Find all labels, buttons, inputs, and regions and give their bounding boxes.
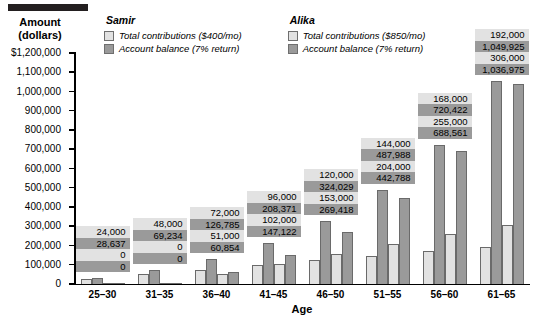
y-axis-tick-label: 0 [55, 278, 61, 289]
bar[interactable] [263, 243, 274, 283]
bar[interactable] [491, 81, 502, 283]
data-label-stack: 168,000720,422255,000688,561 [418, 93, 472, 139]
y-axis-tick-label: 200,000 [25, 239, 61, 250]
bar[interactable] [331, 254, 342, 283]
bar[interactable] [434, 145, 445, 284]
bar[interactable] [366, 256, 377, 284]
bar[interactable] [388, 244, 399, 283]
bar-group: 168,000720,422255,000688,56156–60 [416, 53, 473, 284]
x-axis-tick-label: 61–65 [488, 289, 516, 300]
data-label: 0 [76, 261, 130, 273]
x-axis-line [74, 284, 530, 286]
y-axis-tick-label: 300,000 [25, 220, 61, 231]
data-label: 255,000 [418, 116, 472, 128]
y-axis-tick-label: 800,000 [25, 124, 61, 135]
data-label: 72,000 [190, 207, 244, 219]
bar[interactable] [342, 232, 353, 284]
data-label: 120,000 [304, 169, 358, 181]
data-label: 144,000 [361, 138, 415, 150]
bar[interactable] [445, 234, 456, 283]
bar[interactable] [103, 283, 114, 284]
x-axis-tick-label: 41–45 [260, 289, 288, 300]
bar[interactable] [480, 247, 491, 284]
bar[interactable] [171, 283, 182, 284]
bar[interactable] [206, 259, 217, 283]
x-axis-tick-label: 25–30 [89, 289, 117, 300]
chart-page: Amount (dollars) SamirTotal contribution… [0, 0, 542, 324]
decorative-rule [8, 4, 88, 11]
bar[interactable] [456, 151, 467, 284]
data-label: 269,418 [304, 204, 358, 216]
bar-group: 72,000126,78551,00060,85436–40 [188, 53, 245, 284]
legend-item-label: Total contributions ($850/mo) [303, 30, 426, 41]
legend-item[interactable]: Total contributions ($400/mo) [104, 30, 242, 41]
bars-container [473, 53, 530, 284]
bar[interactable] [320, 221, 331, 283]
data-label-stack: 120,000324,029153,000269,418 [304, 169, 358, 215]
legend: SamirTotal contributions ($400/mo)Accoun… [104, 14, 425, 56]
data-label: 51,000 [190, 230, 244, 242]
data-label-stack: 144,000487,988204,000442,788 [361, 138, 415, 184]
bar[interactable] [114, 283, 125, 284]
bar[interactable] [217, 274, 228, 284]
bar[interactable] [149, 270, 160, 283]
data-label: 0 [76, 249, 130, 261]
bar[interactable] [81, 279, 92, 284]
data-label: 24,000 [76, 226, 130, 238]
bar[interactable] [309, 260, 320, 283]
data-label: 487,988 [361, 149, 415, 161]
x-axis-tick-label: 51–55 [374, 289, 402, 300]
data-label: 306,000 [475, 52, 529, 64]
data-label: 1,049,925 [475, 41, 529, 53]
bars-container [416, 53, 473, 284]
bar[interactable] [252, 265, 263, 283]
bar[interactable] [92, 278, 103, 284]
data-label: 208,371 [247, 203, 301, 215]
bar-group: 48,00069,2340031–35 [131, 53, 188, 284]
bar[interactable] [274, 264, 285, 284]
y-axis-title: Amount (dollars) [4, 16, 76, 42]
data-label: 204,000 [361, 161, 415, 173]
legend-item-label: Total contributions ($400/mo) [119, 30, 242, 41]
y-axis-tick-label: 900,000 [25, 104, 61, 115]
data-label: 192,000 [475, 29, 529, 41]
bar-group: 24,00028,6370025–30 [74, 53, 131, 284]
data-label: 102,000 [247, 214, 301, 226]
bar[interactable] [160, 283, 171, 284]
data-label-stack: 48,00069,23400 [133, 218, 187, 264]
y-axis-tick-label: 1,000,000 [17, 85, 62, 96]
data-label: 688,561 [418, 127, 472, 139]
bar-group: 120,000324,029153,000269,41846–50 [302, 53, 359, 284]
y-axis-tick-label: 1,100,000 [17, 66, 62, 77]
bar[interactable] [399, 198, 410, 283]
legend-person-name: Alika [290, 14, 426, 26]
x-axis-tick-label: 56–60 [431, 289, 459, 300]
bar-group: 192,0001,049,925306,0001,036,97561–65 [473, 53, 530, 284]
bar[interactable] [377, 190, 388, 284]
bar[interactable] [513, 84, 524, 284]
data-label: 153,000 [304, 192, 358, 204]
bar[interactable] [195, 270, 206, 284]
bar[interactable] [502, 225, 513, 284]
bar[interactable] [138, 274, 149, 283]
data-label: 28,637 [76, 238, 130, 250]
data-label: 720,422 [418, 104, 472, 116]
legend-person-name: Samir [106, 14, 242, 26]
data-label: 48,000 [133, 218, 187, 230]
bar[interactable] [285, 255, 296, 283]
bars-container [245, 53, 302, 284]
bar-group: 96,000208,371102,000147,12241–45 [245, 53, 302, 284]
legend-item[interactable]: Total contributions ($850/mo) [288, 30, 426, 41]
data-label: 324,029 [304, 181, 358, 193]
bar[interactable] [423, 251, 434, 283]
x-axis-title: Age [74, 303, 530, 315]
bar[interactable] [228, 272, 239, 284]
data-label: 168,000 [418, 93, 472, 105]
data-label: 0 [133, 241, 187, 253]
y-axis-tick-label: 100,000 [25, 258, 61, 269]
data-label: 442,788 [361, 172, 415, 184]
y-axis-tick-label: 400,000 [25, 201, 61, 212]
data-label: 147,122 [247, 226, 301, 238]
y-axis-title-line2: (dollars) [4, 29, 76, 42]
legend-group-samir: SamirTotal contributions ($400/mo)Accoun… [104, 14, 242, 56]
